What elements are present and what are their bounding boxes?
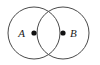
- point-b-label: B: [70, 27, 77, 39]
- point-b-dot: [60, 30, 65, 35]
- point-a-dot: [31, 30, 36, 35]
- venn-diagram-figure: A B: [0, 0, 100, 65]
- venn-diagram-canvas: A B: [0, 0, 100, 65]
- point-a-label: A: [17, 27, 25, 39]
